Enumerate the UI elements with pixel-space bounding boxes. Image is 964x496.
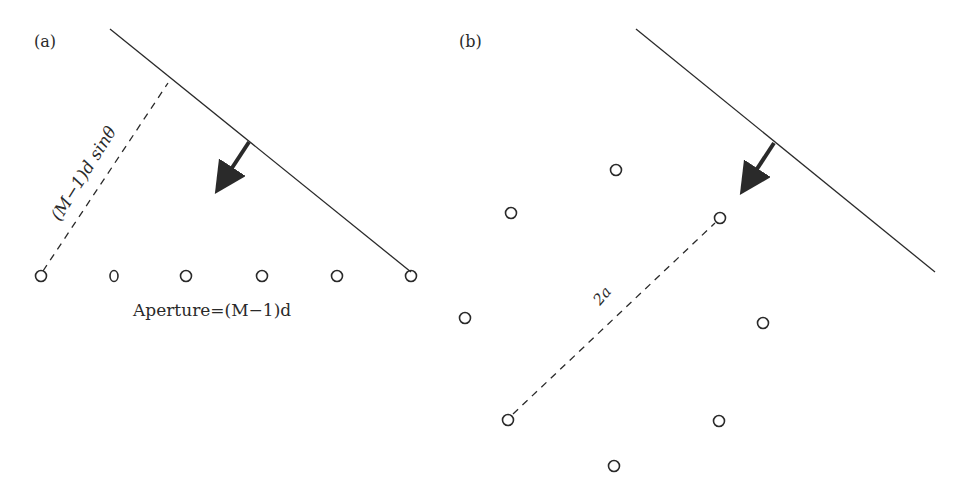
array-element xyxy=(460,313,471,324)
path-difference-dashed-line xyxy=(43,83,168,271)
wavefront-line xyxy=(110,29,411,272)
array-element xyxy=(506,208,517,219)
wavefront-line xyxy=(636,29,935,272)
array-element xyxy=(257,271,268,282)
array-element xyxy=(758,318,769,329)
array-element xyxy=(110,271,118,282)
array-element xyxy=(406,271,417,282)
array-element xyxy=(181,271,192,282)
propagation-arrow-icon xyxy=(228,142,249,174)
array-element xyxy=(609,461,620,472)
panel-a-label: (a) xyxy=(34,32,56,51)
diameter-dashed-line xyxy=(513,223,715,414)
array-element xyxy=(503,415,514,426)
linear-array-elements xyxy=(36,271,417,282)
panel-b: (b) 2a xyxy=(459,29,935,472)
diagram-canvas: (a) (M−1)d sinθ Aperture=(M−1)d (b) 2a xyxy=(0,0,964,496)
diameter-label: 2a xyxy=(589,283,615,310)
circular-array-elements xyxy=(460,165,769,472)
array-element xyxy=(332,271,343,282)
array-element xyxy=(611,165,622,176)
panel-b-label: (b) xyxy=(459,32,482,51)
array-element xyxy=(715,213,726,224)
path-difference-label: (M−1)d sinθ xyxy=(46,122,120,224)
array-element xyxy=(714,416,725,427)
aperture-label: Aperture=(M−1)d xyxy=(132,300,291,320)
panel-a: (a) (M−1)d sinθ Aperture=(M−1)d xyxy=(34,29,417,320)
propagation-arrow-icon xyxy=(753,143,774,175)
array-element xyxy=(36,271,47,282)
